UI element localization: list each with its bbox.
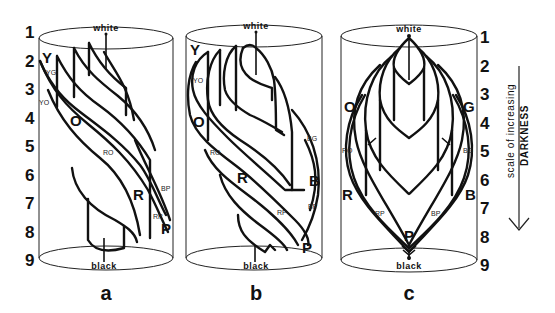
panel-a: white black Y YG YO O RO R BP RP P a bbox=[39, 23, 173, 304]
scale-5-left: 5 bbox=[25, 137, 34, 156]
hue-P-b: P bbox=[302, 239, 312, 256]
scale-2-right: 2 bbox=[480, 57, 489, 76]
hue-BP-a: BP bbox=[161, 185, 171, 192]
hue-RO-c: RO bbox=[342, 147, 353, 154]
pole-dot bbox=[407, 256, 411, 260]
scale-4-right: 4 bbox=[480, 114, 490, 133]
leaf-c-4 bbox=[354, 65, 464, 245]
leaf-a-10 bbox=[104, 52, 134, 120]
color-solid-diagram: 1 2 3 4 5 6 7 8 9 1 2 3 4 5 6 7 8 9 scal… bbox=[0, 0, 555, 313]
pole-white-a: white bbox=[92, 23, 119, 33]
hue-R-c: R bbox=[342, 186, 353, 203]
hue-P-a: P bbox=[161, 220, 171, 237]
scale-5-right: 5 bbox=[480, 142, 489, 161]
left-darkness-scale: 1 2 3 4 5 6 7 8 9 bbox=[25, 23, 35, 270]
leaf-b-11 bbox=[205, 150, 298, 245]
hue-RO-b: RO bbox=[210, 149, 221, 156]
scale-9-right: 9 bbox=[480, 256, 489, 275]
hue-RP-a: RP bbox=[153, 213, 163, 220]
hue-P-c: P bbox=[404, 227, 414, 244]
hue-BG-b: BG bbox=[307, 135, 317, 142]
pole-black-a: black bbox=[91, 261, 117, 271]
hue-RP-c: RP bbox=[375, 210, 385, 217]
scale-3-right: 3 bbox=[480, 85, 489, 104]
scale-7-right: 7 bbox=[480, 199, 489, 218]
panel-label-c: c bbox=[403, 282, 414, 304]
scale-7-left: 7 bbox=[25, 194, 34, 213]
scale-1-left: 1 bbox=[25, 23, 34, 42]
arrow-label-scale: scale of increasing bbox=[505, 84, 516, 178]
hue-YO-a: YO bbox=[39, 99, 50, 106]
leaf-b-3 bbox=[224, 46, 282, 132]
pole-black-b: black bbox=[243, 261, 269, 271]
panel-label-a: a bbox=[100, 282, 112, 304]
scale-4-left: 4 bbox=[25, 109, 35, 128]
hue-O-c: O bbox=[344, 98, 356, 115]
hue-BP-b: BP bbox=[308, 203, 318, 210]
hue-B-b: B bbox=[309, 172, 320, 189]
hue-RP-b: RP bbox=[277, 209, 287, 216]
hue-YO-b: YO bbox=[193, 77, 204, 84]
pole-black-c: black bbox=[396, 261, 422, 271]
hue-RO-a: RO bbox=[103, 149, 114, 156]
pole-white-b: white bbox=[242, 21, 269, 31]
hue-BG-c: BG bbox=[463, 147, 473, 154]
hue-O-a: O bbox=[70, 112, 82, 129]
arrow-label-darkness: DARKNESS bbox=[519, 105, 530, 166]
hue-G-c: G bbox=[463, 98, 475, 115]
leaf-a-7 bbox=[72, 168, 137, 242]
scale-9-left: 9 bbox=[25, 251, 34, 270]
leaf-a-4 bbox=[74, 48, 155, 150]
scale-1-right: 1 bbox=[480, 28, 489, 47]
panel-c: white black O G RO BG R B RP BP P c bbox=[341, 24, 477, 304]
scale-8-right: 8 bbox=[480, 228, 489, 247]
hue-O-b: O bbox=[193, 113, 205, 130]
scale-3-left: 3 bbox=[25, 80, 34, 99]
scale-2-left: 2 bbox=[25, 52, 34, 71]
right-darkness-scale: 1 2 3 4 5 6 7 8 9 bbox=[480, 28, 490, 275]
scale-6-right: 6 bbox=[480, 171, 489, 190]
panel-b: white black Y YO O RO R BG B RP BP P b bbox=[186, 21, 322, 304]
hue-R-a: R bbox=[133, 186, 144, 203]
hue-YG-a: YG bbox=[46, 69, 56, 76]
hue-B-c: B bbox=[465, 186, 476, 203]
hue-Y-a: Y bbox=[42, 49, 52, 66]
panel-label-b: b bbox=[250, 282, 262, 304]
hue-R-b: R bbox=[237, 169, 248, 186]
hue-Y-b: Y bbox=[190, 41, 200, 58]
pole-white-c: white bbox=[395, 24, 422, 34]
hue-BP-c: BP bbox=[431, 210, 441, 217]
scale-6-left: 6 bbox=[25, 166, 34, 185]
darkness-arrow: scale of increasing DARKNESS bbox=[505, 66, 530, 230]
scale-8-left: 8 bbox=[25, 223, 34, 242]
